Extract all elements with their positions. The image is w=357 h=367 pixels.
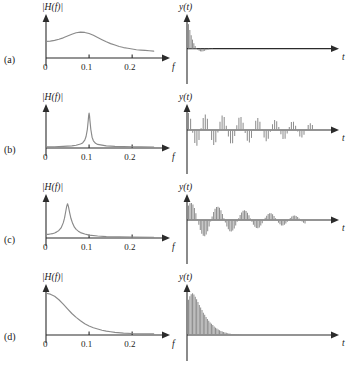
y-axis-label-time: y(t) [179,92,192,102]
figure-row-c: (c)|H(f)|f00.10.2y(t)t [0,180,357,270]
figure-row-d: (d)|H(f)|f00.10.2y(t)t [0,270,357,367]
freq-tick-1: 0.1 [81,152,92,162]
magnitude-panel-a: |H(f)|f00.10.2 [18,0,178,90]
freq-tick-0: 0 [43,62,48,72]
row-label-b: (b) [4,144,16,155]
y-axis-label-time: y(t) [179,2,192,12]
freq-tick-0: 0 [43,152,48,162]
freq-tick-0: 0 [43,242,48,252]
freq-tick-2: 0.2 [124,242,135,252]
y-axis-label-magnitude: |H(f)| [42,2,63,12]
y-axis-label-magnitude: |H(f)| [42,92,63,102]
x-axis-label-time: t [342,223,345,233]
row-label-d: (d) [4,331,16,342]
y-axis-label-magnitude: |H(f)| [42,272,63,282]
magnitude-panel-b: |H(f)|f00.10.2 [18,90,178,180]
magnitude-panel-c: |H(f)|f00.10.2 [18,180,178,270]
figure-row-b: (b)|H(f)|f00.10.2y(t)t [0,90,357,180]
freq-tick-1: 0.1 [81,62,92,72]
magnitude-panel-d: |H(f)|f00.10.2 [18,270,178,367]
impulse-panel-a: y(t)t [175,0,357,90]
x-axis-label-time: t [342,338,345,348]
row-label-a: (a) [4,54,15,65]
y-axis-label-time: y(t) [179,272,192,282]
freq-tick-2: 0.2 [124,339,135,349]
impulse-panel-c: y(t)t [175,180,357,270]
impulse-panel-d: y(t)t [175,270,357,367]
freq-tick-1: 0.1 [81,339,92,349]
freq-tick-1: 0.1 [81,242,92,252]
figure-container: (a)|H(f)|f00.10.2y(t)t(b)|H(f)|f00.10.2y… [0,0,357,367]
x-axis-label-time: t [342,52,345,62]
row-label-c: (c) [4,234,15,245]
y-axis-label-time: y(t) [179,182,192,192]
freq-tick-0: 0 [43,339,48,349]
freq-tick-2: 0.2 [124,62,135,72]
impulse-panel-b: y(t)t [175,90,357,180]
x-axis-label-time: t [342,133,345,143]
figure-row-a: (a)|H(f)|f00.10.2y(t)t [0,0,357,90]
freq-tick-2: 0.2 [124,152,135,162]
y-axis-label-magnitude: |H(f)| [42,182,63,192]
